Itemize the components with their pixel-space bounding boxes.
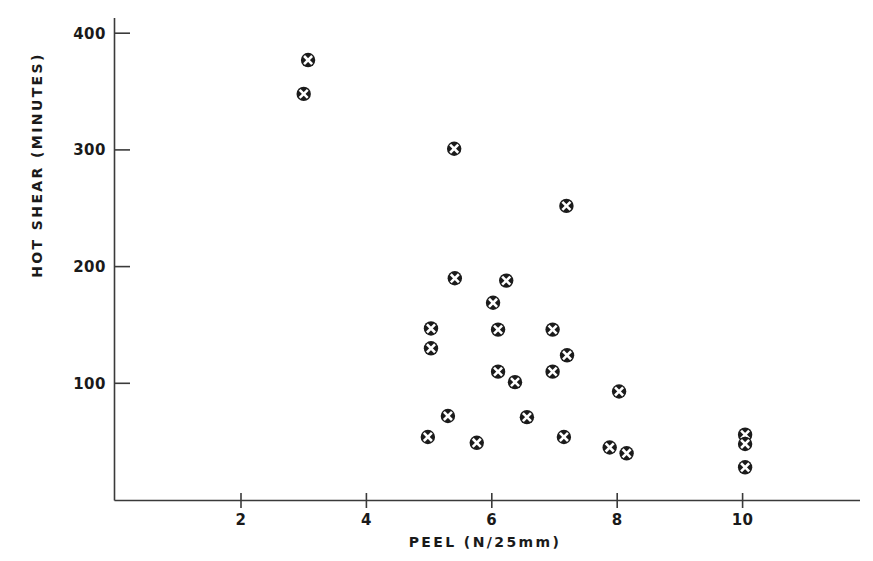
data-point-marker	[297, 87, 311, 101]
data-point-marker	[738, 460, 752, 474]
plot-canvas: 100200300400 246810 PEEL (N/25mm) HOT SH…	[0, 0, 873, 561]
data-point-marker	[520, 410, 534, 424]
data-point-marker	[424, 321, 438, 335]
x-tick-label: 2	[236, 511, 247, 529]
data-point-marker	[508, 375, 522, 389]
data-point-marker	[612, 384, 626, 398]
data-point-marker	[424, 341, 438, 355]
data-point-marker	[491, 364, 505, 378]
y-axis-tick-labels: 100200300400	[73, 25, 106, 393]
y-tick-label: 200	[73, 258, 106, 276]
y-axis-ticks	[115, 33, 131, 383]
data-point-marker	[545, 364, 559, 378]
x-tick-label: 4	[361, 511, 372, 529]
data-point-marker	[448, 271, 462, 285]
data-point-marker	[557, 430, 571, 444]
data-point-marker	[738, 437, 752, 451]
data-point-marker	[545, 322, 559, 336]
x-tick-label: 8	[612, 511, 623, 529]
y-axis-title: HOT SHEAR (MINUTES)	[29, 52, 45, 278]
data-point-marker	[559, 199, 573, 213]
y-tick-label: 100	[73, 375, 106, 393]
y-tick-label: 400	[73, 25, 106, 43]
y-tick-label: 300	[73, 141, 106, 159]
data-point-marker	[560, 348, 574, 362]
data-point-group	[297, 53, 753, 475]
data-point-marker	[491, 322, 505, 336]
x-tick-label: 6	[486, 511, 497, 529]
data-point-marker	[441, 409, 455, 423]
data-point-marker	[301, 53, 315, 67]
x-tick-label: 10	[732, 511, 754, 529]
x-axis-title: PEEL (N/25mm)	[409, 534, 562, 550]
data-point-marker	[602, 440, 616, 454]
data-point-marker	[619, 446, 633, 460]
data-point-marker	[470, 436, 484, 450]
scatter-plot-figure: 100200300400 246810 PEEL (N/25mm) HOT SH…	[0, 0, 873, 561]
data-point-marker	[447, 142, 461, 156]
data-point-marker	[421, 430, 435, 444]
data-point-marker	[499, 273, 513, 287]
data-point-marker	[486, 296, 500, 310]
x-axis-tick-labels: 246810	[236, 511, 754, 529]
